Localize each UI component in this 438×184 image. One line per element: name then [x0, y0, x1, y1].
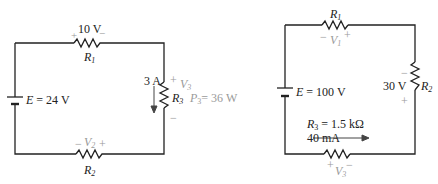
circuit-b-r1-plus: +	[344, 29, 351, 41]
circuit-b-r1-voltage-label: V1	[330, 34, 341, 48]
circuit-b-r3-resistor	[324, 150, 350, 158]
circuit-b-r1-minus: −	[320, 31, 327, 43]
circuit-a-r3-power: P3= 36 W	[190, 92, 237, 106]
circuit-b-current-arrowhead	[362, 135, 369, 141]
circuit-a-r3-plus: +	[170, 74, 177, 86]
circuit-a-r3-label: R3	[172, 92, 183, 106]
circuit-a-r2-resistor	[76, 150, 104, 158]
circuit-b-r3-plus: +	[327, 159, 334, 171]
circuit-a-r3-current: 3 A	[144, 75, 161, 87]
circuit-b-r3-current: 40 mA	[307, 132, 340, 144]
circuit-a-r2-voltage-label: V2	[84, 136, 95, 150]
circuit-b-r2-minus: −	[401, 67, 408, 79]
circuit-a-r1-plus: +	[71, 30, 77, 41]
circuit-a-source-label: E = 24 V	[26, 94, 70, 106]
circuit-b-r2-plus: +	[401, 95, 408, 107]
circuit-a-r1-voltage: 10 V	[78, 23, 101, 35]
circuit-b-r2-label: R2	[421, 80, 432, 94]
circuit-a-r3-minus: −	[170, 112, 177, 124]
circuit-a-r1-label: R1	[84, 51, 95, 65]
circuit-a-r1-minus: −	[99, 28, 105, 39]
circuit-a-r2-label: R2	[84, 164, 95, 178]
circuit-a-r2-plus: +	[99, 138, 106, 150]
circuit-b-r3-value: R3 = 1.5 kΩ	[307, 118, 364, 132]
circuit-b-r2-voltage: 30 V	[383, 80, 406, 92]
circuit-a-r3-resistor	[160, 82, 168, 108]
circuit-a-r3-voltage-label: V3	[180, 78, 191, 92]
circuit-b-r1-label: R1	[330, 8, 341, 22]
circuit-a-r2-minus: −	[75, 138, 82, 150]
circuit-a-current-arrowhead	[151, 106, 157, 113]
circuit-b-r2-resistor	[411, 62, 419, 90]
circuit-b-source-label: E = 100 V	[296, 86, 346, 98]
circuit-b-r3-minus: −	[346, 159, 353, 171]
circuit-a-r1-resistor	[74, 39, 102, 47]
circuit-b-r3-voltage-label: V3	[335, 165, 346, 179]
